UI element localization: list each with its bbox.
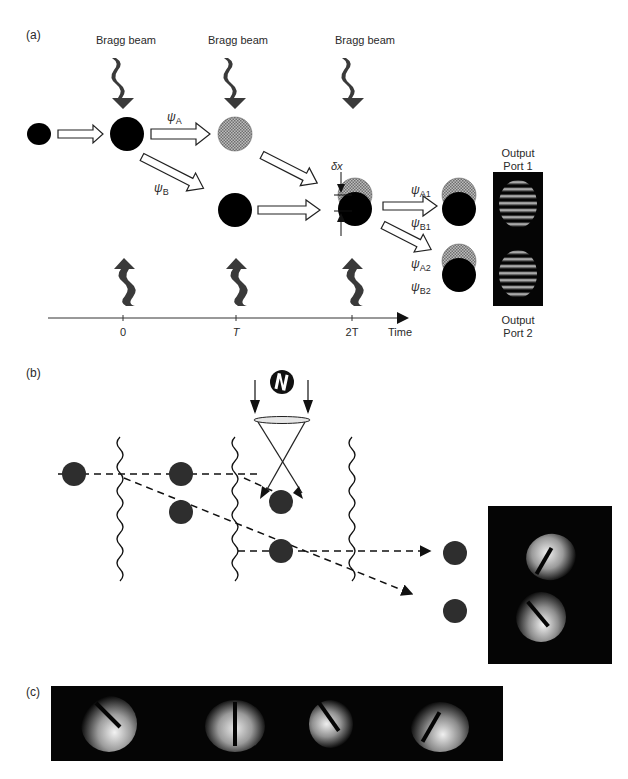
output-port-2-line2: Port 2 bbox=[490, 327, 546, 340]
psi-sub: A2 bbox=[420, 263, 431, 273]
output-fringe-image bbox=[493, 172, 543, 306]
psi-sub: B2 bbox=[420, 286, 431, 296]
psi-sub: B1 bbox=[420, 222, 431, 232]
output-port-1-label: Output Port 1 bbox=[490, 147, 546, 173]
frame-4 bbox=[411, 702, 469, 752]
psi-sub: A1 bbox=[420, 189, 431, 199]
frame-1 bbox=[81, 696, 137, 752]
psi-symbol: ψ bbox=[167, 110, 176, 124]
psi-a2-label: ψA2 bbox=[411, 257, 431, 273]
psi-b-label: ψB bbox=[154, 181, 169, 197]
psi-sub: B bbox=[163, 187, 169, 197]
psi-symbol: ψ bbox=[411, 257, 420, 271]
output-port-2-label: Output Port 2 bbox=[490, 314, 546, 340]
panel-c-image-strip bbox=[51, 686, 503, 761]
time-tick-2T: 2T bbox=[340, 326, 364, 338]
psi-symbol: ψ bbox=[154, 181, 163, 195]
psi-sub: A bbox=[176, 116, 182, 126]
bragg-beam-down-icon bbox=[111, 58, 134, 109]
panel-c-label: (c) bbox=[26, 685, 40, 699]
psi-a1-label: ψA1 bbox=[411, 183, 431, 199]
psi-b1-label: ψB1 bbox=[411, 216, 431, 232]
psi-b2-label: ψB2 bbox=[411, 280, 431, 296]
psi-a-label: ψA bbox=[167, 110, 182, 126]
psi-symbol: ψ bbox=[411, 280, 420, 294]
panel-b-output-image bbox=[488, 506, 612, 664]
time-tick-T: T bbox=[226, 326, 246, 338]
time-axis-label: Time bbox=[388, 326, 412, 338]
psi-symbol: ψ bbox=[411, 216, 420, 230]
psi-symbol: ψ bbox=[411, 183, 420, 197]
output-port-1-line1: Output bbox=[490, 147, 546, 160]
n-glyph-icon bbox=[270, 370, 294, 394]
output-port-2-line1: Output bbox=[490, 314, 546, 327]
delta-x-label: δx bbox=[331, 160, 343, 172]
panel-b-label: (b) bbox=[26, 366, 41, 380]
time-tick-0: 0 bbox=[113, 326, 133, 338]
